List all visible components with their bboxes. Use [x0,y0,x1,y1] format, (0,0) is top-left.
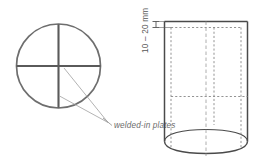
dimension-label: 10 – 20 mm [141,8,150,53]
drawing-canvas: welded-in plates [0,0,262,165]
welded-in-plates-leaders [60,68,113,126]
technical-drawing-figure: welded-in plates [0,0,262,165]
pipe-side-view-group [165,22,248,157]
pipe-cross-section-group [17,24,101,108]
plate-inset-dimension [153,22,172,28]
welded-in-plates-label: welded-in plates [114,121,176,130]
leader-line-horizontal-plate [64,68,108,123]
leader-arrow-stub [103,118,112,126]
